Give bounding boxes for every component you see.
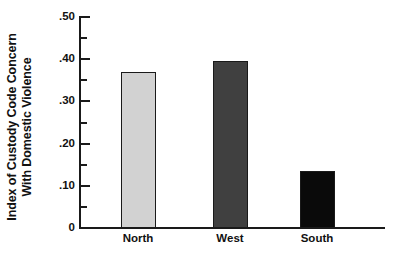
y-axis-tick-label: .50 [45,11,75,23]
x-axis-label-west: West [190,232,270,246]
y-axis-tick-label-wrap: .20 [44,138,75,150]
y-axis-tick-label-wrap: 0 [44,222,75,234]
y-axis-tick-label: 0 [45,222,75,234]
bar-north [121,72,156,228]
x-axis-label-south: South [277,232,357,246]
bar-chart: Index of Custody Code Concern With Domes… [0,0,398,254]
y-axis-tick-label: .10 [45,180,75,192]
y-axis-title: Index of Custody Code Concern With Domes… [0,0,40,254]
y-axis-tick-label: .30 [45,95,75,107]
bar-south [300,171,335,228]
y-axis-tick-label: .20 [45,138,75,150]
x-axis-category-labels: NorthWestSouth [79,232,385,250]
bar-west [213,61,248,228]
y-axis-title-line-1: Index of Custody Code Concern [5,33,20,220]
y-axis-title-line-2: With Domestic Violence [20,57,35,196]
y-axis-tick-label-wrap: .50 [44,11,75,23]
y-axis-tick-label-wrap: .30 [44,95,75,107]
y-axis-tick-label: .40 [45,53,75,65]
y-axis-tick-label-wrap: .10 [44,180,75,192]
y-axis-tick-label-wrap: .40 [44,53,75,65]
bars-layer [79,17,385,228]
x-axis-label-north: North [98,232,178,246]
